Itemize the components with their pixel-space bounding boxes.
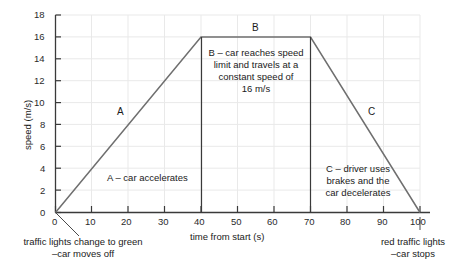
end-callout-line2: –car stops [363, 248, 463, 260]
segment-c-note-line2: brakes and the [316, 175, 400, 187]
start-callout-line1: traffic lights change to green [8, 236, 158, 248]
segment-c-note: C – driver uses brakes and the car decel… [316, 163, 400, 199]
segment-c-note-line3: car decelerates [316, 187, 400, 199]
x-tick-80: 80 [340, 216, 351, 227]
y-tick-14: 14 [34, 53, 45, 64]
x-tick-100: 100 [410, 216, 426, 227]
y-axis-title: speed (m/s) [22, 100, 33, 150]
y-tick-12: 12 [34, 75, 45, 86]
segment-a-letter: A [117, 106, 124, 117]
segment-b-letter: B [252, 22, 259, 33]
x-tick-40: 40 [194, 216, 205, 227]
y-tick-2: 2 [40, 185, 45, 196]
y-tick-6: 6 [40, 141, 45, 152]
x-tick-30: 30 [158, 216, 169, 227]
segment-a-note: A – car accelerates [107, 172, 188, 184]
y-tick-0: 0 [40, 207, 45, 218]
x-tick-60: 60 [267, 216, 278, 227]
end-callout-line1: red traffic lights [363, 236, 463, 248]
start-callout: traffic lights change to green –car move… [8, 236, 158, 260]
y-tick-4: 4 [40, 163, 45, 174]
y-tick-8: 8 [40, 119, 45, 130]
chart-stage: speed (m/s) 0 2 4 6 8 10 12 14 16 18 0 1… [0, 0, 467, 273]
segment-b-note-line3: constant speed of [204, 71, 308, 83]
x-tick-10: 10 [85, 216, 96, 227]
x-tick-90: 90 [377, 216, 388, 227]
x-tick-20: 20 [121, 216, 132, 227]
segment-b-note-line1: B – car reaches speed [204, 47, 308, 59]
x-tick-0: 0 [52, 216, 57, 227]
start-callout-line2: –car moves off [8, 248, 158, 260]
y-axis-ticks [56, 15, 62, 213]
y-tick-16: 16 [34, 31, 45, 42]
segment-c-letter: C [368, 106, 375, 117]
x-tick-70: 70 [304, 216, 315, 227]
segment-b-note-line4: 16 m/s [204, 83, 308, 95]
x-axis-title: time from start (s) [190, 231, 264, 242]
segment-b-note-line2: limit and travels at a [204, 59, 308, 71]
y-tick-10: 10 [34, 97, 45, 108]
end-callout: red traffic lights –car stops [363, 236, 463, 260]
y-tick-18: 18 [34, 9, 45, 20]
x-axis-ticks [56, 206, 421, 213]
segment-c-note-line1: C – driver uses [316, 163, 400, 175]
x-tick-50: 50 [231, 216, 242, 227]
start-callout-leader [56, 213, 80, 237]
segment-b-note: B – car reaches speed limit and travels … [204, 47, 308, 95]
